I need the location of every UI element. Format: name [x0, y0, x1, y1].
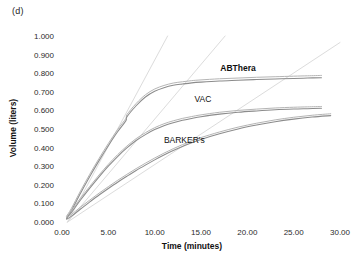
x-tick-label: 25.00	[284, 228, 305, 237]
x-tick-label: 10.00	[145, 228, 166, 237]
y-tick-label: 1.000	[34, 32, 55, 41]
y-tick-label: 0.600	[34, 106, 55, 115]
y-tick-label: 0.400	[34, 144, 55, 153]
tangent-line-BARKERs-initial-slope	[68, 43, 340, 222]
y-tick-label: 0.500	[34, 125, 55, 134]
series-label-BARKERs: BARKER's	[164, 135, 205, 145]
curve-BARKER's	[67, 116, 331, 220]
figure-panel-d: (d) 0.005.0010.0015.0020.0025.0030.00 0.…	[0, 0, 352, 258]
y-tick-label: 0.300	[34, 162, 55, 171]
x-axis-title: Time (minutes)	[162, 241, 222, 251]
x-tick-label: 0.00	[54, 228, 70, 237]
y-tick-label: 0.000	[34, 218, 55, 227]
chart-canvas: 0.005.0010.0015.0020.0025.0030.00 0.0000…	[0, 0, 352, 258]
y-tick-label: 0.200	[34, 181, 55, 190]
x-tick-label: 5.00	[101, 228, 117, 237]
curve-band-BARKER's	[67, 114, 331, 218]
y-tick-label: 0.700	[34, 88, 55, 97]
y-tick-label: 0.100	[34, 199, 55, 208]
tangent-lines-group	[68, 36, 340, 222]
x-tick-label: 20.00	[237, 228, 258, 237]
curve-VAC	[67, 108, 322, 218]
y-tick-label: 0.800	[34, 69, 55, 78]
series-label-VAC: VAC	[194, 94, 211, 104]
y-axis-title: Volume (liters)	[8, 99, 18, 158]
x-tick-label: 15.00	[191, 228, 212, 237]
tangent-line-VAC-initial-slope	[68, 36, 226, 222]
series-label-ABThera: ABThera	[220, 63, 256, 73]
x-tick-label: 30.00	[330, 228, 351, 237]
y-axis-tick-labels: 0.0000.1000.2000.3000.4000.5000.6000.700…	[34, 32, 55, 227]
series-annotations-group: ABTheraVACBARKER's	[164, 63, 256, 145]
y-tick-label: 0.900	[34, 51, 55, 60]
x-axis-tick-labels: 0.005.0010.0015.0020.0025.0030.00	[54, 228, 350, 237]
curve-band-VAC	[67, 106, 322, 216]
